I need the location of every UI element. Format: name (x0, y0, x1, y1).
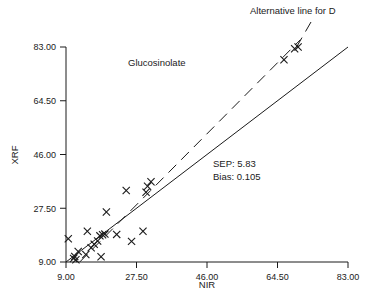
y-tick-label: 83.00 (33, 42, 56, 52)
y-tick-label: 27.50 (33, 204, 56, 214)
y-tick-label: 9.00 (38, 257, 56, 267)
series-title-label: Glucosinolate (128, 57, 186, 68)
y-tick-label: 46.00 (33, 150, 56, 160)
glucosinolate-scatter-chart: Alternative line for D Glucosinolate SEP… (0, 0, 365, 300)
x-tick-label: 27.50 (125, 272, 148, 282)
x-axis-title: NIR (199, 279, 216, 290)
y-axis-title: XRF (9, 145, 20, 164)
alternative-line-callout-label: Alternative line for D (250, 5, 336, 16)
x-tick-label: 9.00 (57, 272, 75, 282)
bias-stat-label: Bias: 0.105 (213, 171, 261, 182)
x-tick-label: 64.50 (266, 272, 289, 282)
chart-canvas: Alternative line for D Glucosinolate SEP… (0, 0, 365, 300)
sep-stat-label: SEP: 5.83 (213, 158, 256, 169)
x-tick-label: 83.00 (337, 272, 360, 282)
y-tick-label: 64.50 (33, 96, 56, 106)
